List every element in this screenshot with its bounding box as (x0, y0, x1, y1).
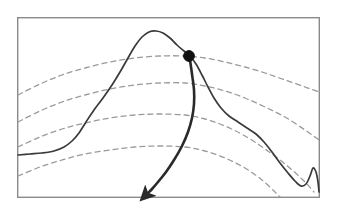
intersection-dot (184, 51, 195, 62)
diagram-svg (0, 0, 337, 216)
contour-2 (18, 83, 319, 140)
contour-4 (18, 146, 280, 197)
contour-3 (18, 114, 314, 192)
contour-arcs-group (18, 56, 319, 197)
contour-1 (18, 56, 319, 95)
diagram-canvas (0, 0, 337, 216)
descent-arrow (145, 60, 194, 196)
